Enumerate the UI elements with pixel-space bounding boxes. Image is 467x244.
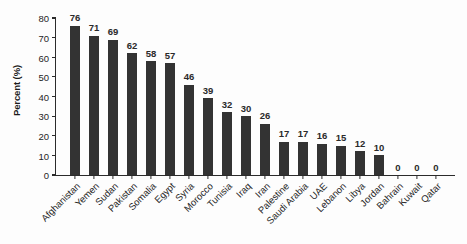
bar-group[interactable]: 58Somalia <box>142 18 161 175</box>
bar[interactable] <box>241 116 251 175</box>
bar-value-label: 30 <box>241 104 252 114</box>
bar-value-label: 39 <box>203 86 214 96</box>
y-axis-tick-mark <box>52 37 56 38</box>
bar-value-label: 0 <box>395 163 400 173</box>
bar-group[interactable]: 17Palestine <box>275 18 294 175</box>
bar-chart-figure: Percent (%) 01020304050607080 76Afghanis… <box>0 0 467 244</box>
bar-group[interactable]: 16UAE <box>313 18 332 175</box>
x-axis-tick-mark <box>283 175 284 179</box>
x-axis-tick-mark <box>264 175 265 179</box>
bar[interactable] <box>222 112 232 175</box>
y-axis-tick-label: 30 <box>38 112 52 122</box>
bar-group[interactable]: 76Afghanistan <box>66 18 85 175</box>
bar-group[interactable]: 30Iraq <box>237 18 256 175</box>
bar-group[interactable]: 62Pakistan <box>123 18 142 175</box>
y-axis-tick-label: 60 <box>38 53 52 63</box>
y-axis-tick-label: 80 <box>38 14 52 24</box>
x-axis-tick-mark <box>188 175 189 179</box>
bar[interactable] <box>108 40 118 175</box>
x-axis-tick-mark <box>112 175 113 179</box>
bar-group[interactable]: 26Iran <box>256 18 275 175</box>
x-axis-tick-mark <box>207 175 208 179</box>
bar-value-label: 57 <box>165 51 176 61</box>
bar-group[interactable]: 0Kuwait <box>408 18 427 175</box>
y-axis-tick-label: 20 <box>38 132 52 142</box>
bar-value-label: 32 <box>222 100 233 110</box>
y-axis-tick-label: 0 <box>44 171 52 181</box>
bar-value-label: 12 <box>355 139 366 149</box>
bar-value-label: 62 <box>127 41 138 51</box>
x-axis-tick-mark <box>150 175 151 179</box>
y-axis-tick-mark <box>52 155 56 156</box>
bar-value-label: 58 <box>146 49 157 59</box>
plot-area: 01020304050607080 76Afghanistan71Yemen69… <box>56 18 455 175</box>
y-axis-tick-mark <box>52 76 56 77</box>
x-axis-tick-mark <box>378 175 379 179</box>
bar-group[interactable]: 69Sudan <box>104 18 123 175</box>
x-axis-tick-mark <box>93 175 94 179</box>
x-axis-tick-mark <box>416 175 417 179</box>
bar-value-label: 15 <box>336 133 347 143</box>
bar-group[interactable]: 12Libya <box>351 18 370 175</box>
bar[interactable] <box>317 144 327 175</box>
bar[interactable] <box>70 26 80 175</box>
bar-value-label: 26 <box>260 111 271 121</box>
x-axis-tick-mark <box>302 175 303 179</box>
bar-group[interactable]: 71Yemen <box>85 18 104 175</box>
y-axis-tick-label: 70 <box>38 33 52 43</box>
bar[interactable] <box>279 142 289 175</box>
y-axis-tick-mark <box>52 116 56 117</box>
bar[interactable] <box>165 63 175 175</box>
bar-group[interactable]: 32Tunisia <box>218 18 237 175</box>
x-axis-tick-mark <box>131 175 132 179</box>
bar[interactable] <box>260 124 270 175</box>
bar[interactable] <box>127 53 137 175</box>
bar[interactable] <box>89 36 99 175</box>
x-axis-tick-label: Egypt <box>153 181 177 205</box>
bar[interactable] <box>336 146 346 175</box>
y-axis-tick-label: 10 <box>38 151 52 161</box>
bar-value-label: 46 <box>184 72 195 82</box>
bar-value-label: 17 <box>298 129 309 139</box>
x-axis-tick-mark <box>397 175 398 179</box>
bar-group[interactable]: 57Egypt <box>161 18 180 175</box>
x-axis-tick-label: Qatar <box>419 181 443 205</box>
x-axis-tick-mark <box>74 175 75 179</box>
y-axis-tick-mark <box>52 96 56 97</box>
bar[interactable] <box>184 85 194 175</box>
x-axis-tick-mark <box>169 175 170 179</box>
bar[interactable] <box>298 142 308 175</box>
x-axis-tick-mark <box>435 175 436 179</box>
x-axis-tick-label: Iraq <box>234 181 252 199</box>
bar-group[interactable]: 0Bahrain <box>389 18 408 175</box>
x-axis-tick-mark <box>226 175 227 179</box>
y-axis-tick-mark <box>52 17 56 18</box>
y-axis-tick-mark <box>52 174 56 175</box>
bar[interactable] <box>146 61 156 175</box>
bar-group[interactable]: 46Syria <box>180 18 199 175</box>
y-axis-title: Percent (%) <box>0 0 34 180</box>
bar-value-label: 17 <box>279 129 290 139</box>
bar-group[interactable]: 15Lebanon <box>332 18 351 175</box>
bar[interactable] <box>355 151 365 175</box>
y-axis-tick-label: 40 <box>38 92 52 102</box>
bar-value-label: 16 <box>317 131 328 141</box>
bar-group[interactable]: 39Morocco <box>199 18 218 175</box>
bar[interactable] <box>374 155 384 175</box>
x-axis-tick-mark <box>359 175 360 179</box>
bar[interactable] <box>203 98 213 175</box>
bar-value-label: 69 <box>108 27 119 37</box>
bar-group[interactable]: 10Jordan <box>370 18 389 175</box>
y-axis-title-label: Percent (%) <box>12 64 23 115</box>
x-axis-tick-mark <box>245 175 246 179</box>
y-axis-tick-mark <box>52 57 56 58</box>
bar-group[interactable]: 17Saudi Arabia <box>294 18 313 175</box>
bar-value-label: 71 <box>89 23 100 33</box>
bar-value-label: 10 <box>374 143 385 153</box>
bar-value-label: 0 <box>414 163 419 173</box>
x-axis-tick-mark <box>321 175 322 179</box>
bar-group[interactable]: 0Qatar <box>427 18 446 175</box>
y-axis-tick-label: 50 <box>38 73 52 83</box>
bar-value-label: 0 <box>433 163 438 173</box>
x-axis-tick-mark <box>340 175 341 179</box>
